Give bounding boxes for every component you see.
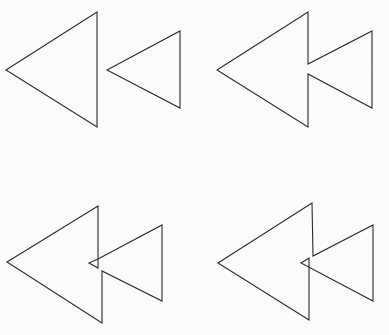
panel-overlap-crossed [218,203,373,320]
rewind-notch-icon [7,206,162,323]
rewind-crossed-icon [218,203,373,320]
rewind-joined-icon [217,12,372,127]
big-triangle-left-icon [6,12,97,127]
triangles-diagram [0,0,389,335]
panel-joined [217,12,372,127]
panel-separate [6,12,180,127]
small-triangle-left-icon [107,31,180,108]
panel-overlap-notch [7,206,162,323]
